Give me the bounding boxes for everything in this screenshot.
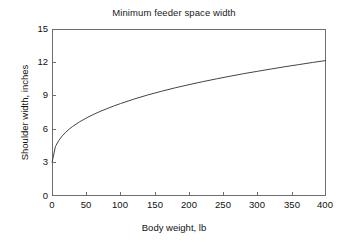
- x-tick-mark-200: [189, 192, 190, 196]
- y-tick-mark-3: [52, 162, 56, 163]
- x-axis-title: Body weight, lb: [0, 222, 348, 233]
- x-tick-mark-250: [223, 192, 224, 196]
- x-tick-mark-400: [325, 192, 326, 196]
- x-tick-mark-50: [86, 192, 87, 196]
- series-line-shoulder-width: [52, 61, 326, 163]
- y-tick-mark-9: [52, 95, 56, 96]
- x-tick-label-300: 300: [237, 199, 277, 210]
- y-axis-title: Shoulder width, inches: [19, 33, 30, 193]
- chart-container: Minimum feeder space width 15 12 9 6 3 0…: [0, 0, 348, 251]
- y-tick-mark-12: [52, 62, 56, 63]
- x-tick-mark-300: [257, 192, 258, 196]
- x-tick-label-100: 100: [100, 199, 140, 210]
- x-tick-mark-150: [155, 192, 156, 196]
- y-tick-mark-6: [52, 129, 56, 130]
- x-tick-label-400: 400: [305, 199, 345, 210]
- x-tick-mark-100: [120, 192, 121, 196]
- data-curve-svg: [52, 29, 326, 196]
- chart-title: Minimum feeder space width: [0, 7, 348, 18]
- x-tick-mark-350: [292, 192, 293, 196]
- x-tick-mark-0: [52, 192, 53, 196]
